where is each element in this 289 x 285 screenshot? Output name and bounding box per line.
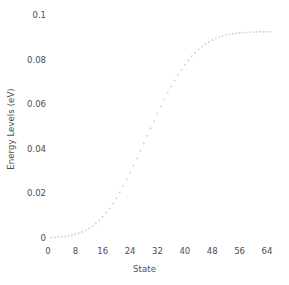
data-point	[61, 236, 63, 238]
x-tick-label: 64	[262, 246, 273, 256]
data-point	[239, 32, 241, 34]
data-point	[133, 165, 135, 167]
data-point	[184, 64, 186, 66]
data-point	[78, 232, 80, 234]
data-point	[191, 55, 193, 57]
data-point	[170, 86, 172, 88]
data-point	[204, 43, 206, 45]
data-point	[181, 69, 183, 71]
data-point	[122, 185, 124, 187]
data-point	[74, 233, 76, 235]
data-point	[242, 32, 244, 34]
x-tick-label: 32	[152, 246, 163, 256]
y-axis-title-wrapper: Energy Levels (eV)	[6, 59, 20, 199]
y-tick-label: 0.06	[27, 99, 46, 109]
data-point	[222, 35, 224, 37]
data-point	[98, 219, 100, 221]
data-point	[119, 191, 121, 193]
data-point	[50, 237, 52, 239]
data-point	[54, 236, 56, 238]
data-point	[109, 207, 111, 209]
x-tick-label: 16	[97, 246, 108, 256]
data-point	[81, 231, 83, 233]
data-point	[187, 59, 189, 61]
data-point	[157, 113, 159, 115]
data-point	[139, 150, 141, 152]
data-point	[208, 41, 210, 43]
x-tick-label: 8	[73, 246, 78, 256]
data-point	[126, 179, 128, 181]
x-tick-label: 24	[125, 246, 136, 256]
data-point	[266, 31, 268, 33]
y-tick-label: 0	[41, 233, 46, 243]
data-point	[194, 52, 196, 54]
data-point	[146, 135, 148, 137]
data-point	[201, 45, 203, 47]
data-point	[218, 36, 220, 38]
data-point	[225, 34, 227, 36]
data-point	[64, 235, 66, 237]
data-point	[150, 127, 152, 129]
data-point	[88, 227, 90, 229]
data-point	[112, 202, 114, 204]
y-tick-label: 0.02	[27, 188, 46, 198]
data-point	[256, 31, 258, 33]
data-point	[163, 99, 165, 101]
y-tick-label: 0.04	[27, 144, 46, 154]
data-point	[249, 31, 251, 33]
data-point	[68, 235, 70, 237]
data-point	[71, 234, 73, 236]
data-point	[228, 33, 230, 35]
x-tick-label: 56	[234, 246, 245, 256]
data-point	[232, 33, 234, 35]
data-series-energy-levels	[50, 31, 271, 239]
data-point	[143, 143, 145, 145]
chart-figure: 0816243240485664 00.020.040.060.080.1 St…	[0, 0, 289, 285]
data-point	[129, 172, 131, 174]
x-tick-label: 48	[207, 246, 218, 256]
x-tick-label: 40	[179, 246, 190, 256]
data-point	[263, 31, 265, 33]
data-point	[153, 120, 155, 122]
data-point	[211, 39, 213, 41]
x-tick-label: 0	[45, 246, 50, 256]
data-point	[215, 37, 217, 39]
data-point	[95, 223, 97, 225]
data-point	[115, 197, 117, 199]
y-tick-label: 0.1	[32, 10, 46, 20]
y-axis-title: Energy Levels (eV)	[6, 59, 16, 199]
data-point	[235, 32, 237, 34]
data-point	[102, 216, 104, 218]
data-point	[259, 31, 261, 33]
data-point	[269, 31, 271, 33]
data-point	[105, 212, 107, 214]
data-point	[252, 31, 254, 33]
data-point	[85, 229, 87, 231]
data-point	[136, 157, 138, 159]
data-point	[57, 236, 59, 238]
data-point	[174, 80, 176, 82]
data-point	[177, 74, 179, 76]
data-point	[198, 48, 200, 50]
data-point	[92, 225, 94, 227]
data-point	[167, 92, 169, 94]
data-point	[160, 105, 162, 107]
x-axis-title: State	[0, 264, 289, 274]
y-tick-label: 0.08	[27, 55, 46, 65]
data-point	[246, 31, 248, 33]
